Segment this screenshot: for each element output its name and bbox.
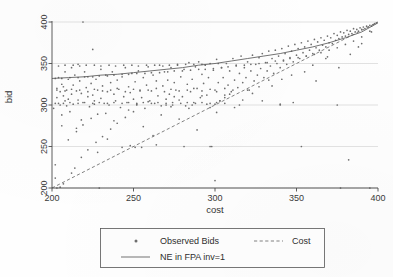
data-point: [224, 94, 226, 96]
data-point: [214, 180, 216, 182]
data-point: [217, 82, 219, 84]
data-point: [54, 177, 56, 179]
data-point: [227, 84, 229, 86]
data-point: [206, 103, 208, 105]
y-tick-label-250: 250: [39, 139, 49, 154]
data-point: [94, 100, 96, 102]
data-point: [167, 71, 169, 73]
data-point: [361, 43, 363, 45]
data-point: [206, 94, 208, 96]
data-point: [103, 102, 105, 104]
data-point: [340, 31, 342, 33]
data-point: [362, 26, 364, 28]
data-point: [182, 96, 184, 98]
data-point: [71, 172, 73, 174]
data-point: [98, 102, 100, 104]
data-point: [147, 89, 149, 91]
data-point: [315, 80, 317, 82]
data-point: [312, 53, 314, 55]
scatter-chart: 200250300350400 200250300350400 cost bid…: [0, 0, 393, 277]
data-point: [356, 29, 358, 31]
data-point: [123, 64, 125, 66]
data-point: [257, 74, 259, 76]
data-point: [100, 65, 102, 67]
data-point: [64, 100, 66, 102]
data-point: [252, 93, 254, 95]
data-point: [345, 44, 347, 46]
data-point: [253, 80, 255, 82]
data-point: [121, 76, 123, 78]
data-point: [261, 53, 263, 55]
data-point: [80, 119, 82, 121]
data-point: [164, 71, 166, 73]
data-point: [299, 58, 301, 60]
data-point: [237, 87, 239, 89]
data-point: [317, 41, 319, 43]
data-point: [133, 111, 135, 113]
data-point: [183, 68, 185, 70]
data-point: [72, 84, 74, 86]
data-point: [160, 105, 162, 107]
data-point: [188, 107, 190, 109]
data-point: [193, 63, 195, 65]
data-point: [102, 136, 104, 138]
data-point: [320, 37, 322, 39]
data-point: [125, 117, 127, 119]
data-point: [327, 35, 329, 37]
data-point: [369, 30, 371, 32]
data-point: [76, 90, 78, 92]
data-point: [120, 107, 122, 109]
data-point: [159, 64, 161, 66]
data-point: [54, 164, 56, 166]
data-point: [201, 95, 203, 97]
data-point: [77, 63, 79, 65]
data-point: [216, 91, 218, 93]
data-point: [123, 96, 125, 98]
data-point: [301, 42, 303, 44]
data-point: [242, 82, 244, 84]
data-point: [58, 65, 60, 67]
data-point: [136, 102, 138, 104]
data-point: [74, 167, 76, 169]
data-point: [216, 102, 218, 104]
data-point: [94, 103, 96, 105]
data-point: [64, 90, 66, 92]
data-point: [261, 100, 263, 102]
data-point: [221, 67, 223, 69]
data-point: [216, 59, 218, 61]
data-point: [203, 83, 205, 85]
data-point: [183, 146, 185, 148]
data-point: [108, 64, 110, 66]
data-point: [348, 34, 350, 36]
data-point: [266, 70, 268, 72]
data-point: [151, 72, 153, 74]
data-point: [304, 46, 306, 48]
data-point: [291, 74, 293, 76]
data-point: [105, 112, 107, 114]
data-point: [95, 78, 97, 80]
data-point: [185, 63, 187, 65]
data-point: [211, 146, 213, 148]
data-point: [248, 89, 250, 91]
data-point: [336, 47, 338, 49]
data-point: [243, 67, 245, 69]
data-point: [87, 149, 89, 151]
data-point: [265, 62, 267, 64]
data-point: [63, 95, 65, 97]
data-point: [61, 114, 63, 116]
data-point: [279, 103, 281, 105]
legend-label-cost: Cost: [292, 236, 311, 246]
data-point: [281, 48, 283, 50]
data-point: [67, 139, 69, 141]
data-point: [213, 69, 215, 71]
data-point: [198, 68, 200, 70]
data-point: [76, 131, 78, 133]
data-point: [170, 67, 172, 69]
data-point: [343, 32, 345, 34]
data-point: [209, 102, 211, 104]
data-point: [115, 100, 117, 102]
data-point: [80, 93, 82, 95]
x-tick-label-350: 350: [289, 193, 304, 203]
data-point: [154, 102, 156, 104]
data-point: [165, 98, 167, 100]
